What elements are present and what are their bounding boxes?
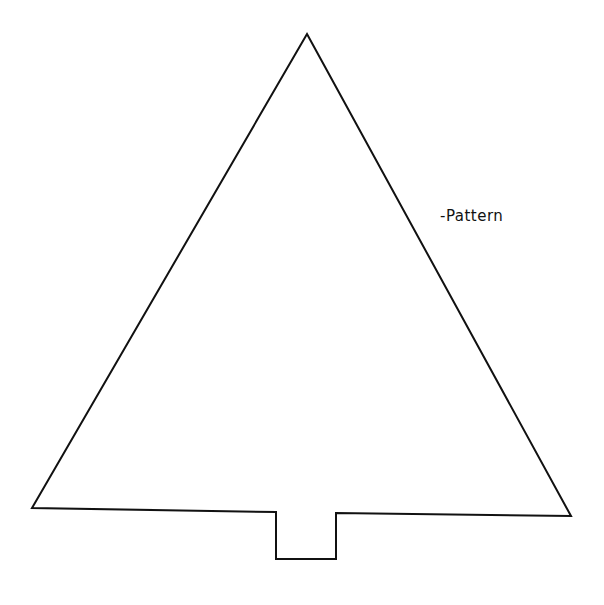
pattern-label: -Pattern [440,207,503,225]
tree-outline [32,34,571,559]
tree-pattern-drawing [0,0,604,605]
